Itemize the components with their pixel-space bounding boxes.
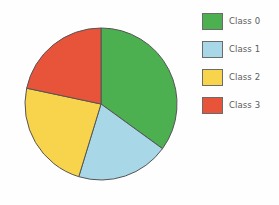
legend-swatch-class-2 [202, 69, 223, 86]
legend-label-class-1: Class 1 [229, 45, 260, 54]
pie-chart-figure: Class 0 Class 1 Class 2 Class 3 [0, 0, 279, 205]
legend-item-class-2[interactable]: Class 2 [202, 68, 278, 86]
pie-slice-group [25, 28, 177, 180]
legend-item-class-0[interactable]: Class 0 [202, 12, 278, 30]
legend-swatch-class-1 [202, 41, 223, 58]
legend-swatch-class-3 [202, 97, 223, 114]
legend-item-class-3[interactable]: Class 3 [202, 96, 278, 114]
legend-swatch-class-0 [202, 13, 223, 30]
chart-legend: Class 0 Class 1 Class 2 Class 3 [202, 12, 278, 114]
legend-label-class-0: Class 0 [229, 17, 260, 26]
legend-label-class-3: Class 3 [229, 101, 260, 110]
legend-item-class-1[interactable]: Class 1 [202, 40, 278, 58]
legend-label-class-2: Class 2 [229, 73, 260, 82]
